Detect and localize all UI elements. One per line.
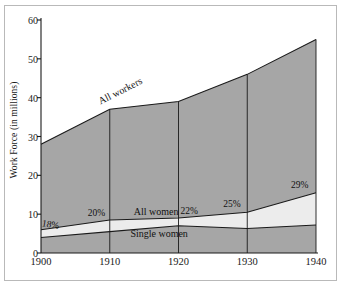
annotation-pct-1940: 29% bbox=[291, 180, 308, 190]
annotation-pct-1920: 22% bbox=[181, 206, 198, 216]
y-tick-40: 40 bbox=[16, 92, 38, 103]
annotation-pct-1910: 20% bbox=[88, 208, 105, 218]
y-tick-30: 30 bbox=[16, 131, 38, 142]
area-chart: Work Force (in millions) 60 50 40 30 20 … bbox=[0, 0, 343, 291]
x-tick-1930: 1930 bbox=[237, 256, 258, 267]
series-label-single-women: Single women bbox=[130, 228, 188, 239]
series-label-all-women: All women bbox=[134, 206, 179, 217]
x-axis-tick-labels: 1900 1910 1920 1930 1940 bbox=[0, 256, 343, 276]
y-tick-20: 20 bbox=[16, 170, 38, 181]
chart-plot-svg bbox=[0, 0, 343, 291]
annotation-pct-1930: 25% bbox=[223, 199, 240, 209]
y-tick-50: 50 bbox=[16, 53, 38, 64]
x-tick-1920: 1920 bbox=[168, 256, 189, 267]
y-tick-60: 60 bbox=[16, 15, 38, 26]
x-tick-1910: 1910 bbox=[99, 256, 120, 267]
x-tick-1900: 1900 bbox=[31, 256, 52, 267]
x-tick-1940: 1940 bbox=[306, 256, 327, 267]
y-axis-tick-labels: 60 50 40 30 20 10 0 bbox=[16, 0, 38, 291]
y-tick-10: 10 bbox=[16, 209, 38, 220]
